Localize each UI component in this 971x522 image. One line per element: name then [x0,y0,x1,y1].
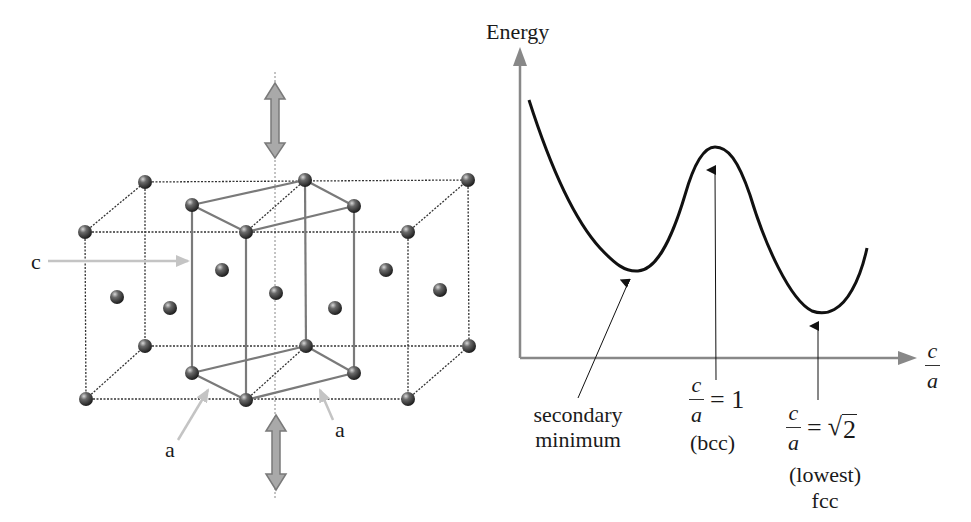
a-right-pointer-arrow [320,390,333,420]
x-axis-arrowhead [898,351,917,365]
fcc-eq: = [807,413,822,443]
fcc-num: c [789,402,799,424]
x-axis-label-num: c [928,340,938,362]
y-axis-arrowhead [513,47,527,66]
energy-chart [513,47,917,400]
label-c: c [31,251,41,273]
secondary-minimum-label: secondary minimum [523,402,633,452]
bcc-ratio-label: c a = 1 [689,374,744,426]
label-a-left: a [165,439,175,461]
fcc-note: (lowest) fcc [780,462,870,514]
x-axis-label: c a [925,340,940,392]
x-axis-label-den: a [927,370,938,392]
bcc-eq: = 1 [710,385,744,415]
fcc-den: a [788,432,799,454]
secondary-min-pointer [578,283,628,398]
bcc-num: c [692,374,702,396]
atoms [78,173,476,407]
figure: c a a Energy c a secondary minimum c a =… [0,0,971,522]
bcc-den: a [691,404,702,426]
y-axis-label: Energy [486,21,549,43]
secondary-line1: secondary [523,402,633,427]
secondary-line2: minimum [523,427,633,452]
double-arrow-bottom-icon [266,415,286,490]
fcc-note1: (lowest) [780,462,870,488]
sqrt-icon: √2 [828,412,857,445]
bcc-pointer [715,170,716,380]
energy-curve [529,100,867,313]
label-a-right: a [335,419,345,441]
fcc-ratio-label: c a = √2 [786,402,857,454]
double-arrow-top-icon [265,83,285,158]
a-left-pointer-arrow [178,390,208,440]
fcc-radicand: 2 [842,414,857,445]
bcc-note: (bcc) [690,432,735,454]
lattice-diagram [48,72,476,500]
fcc-note2: fcc [780,488,870,514]
